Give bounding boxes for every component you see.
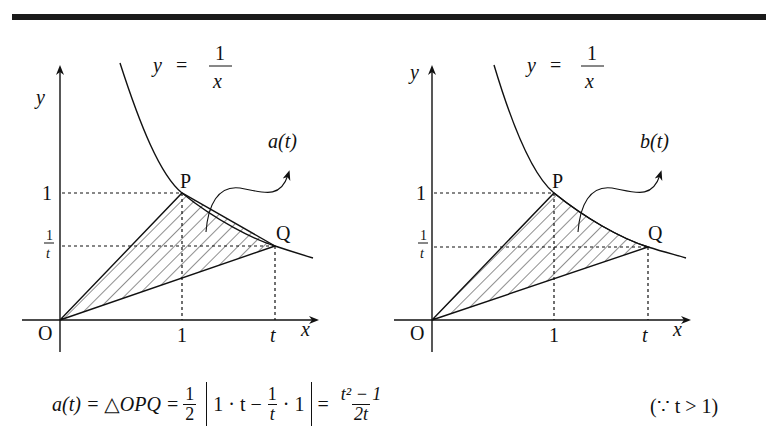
x-tick-t: t bbox=[642, 324, 648, 346]
y-tick-frac-num: 1 bbox=[420, 228, 427, 243]
x-tick-1: 1 bbox=[549, 324, 559, 346]
y-tick-frac-den: t bbox=[46, 246, 51, 261]
figures-svg: y x O 1 t 1 1 t P Q a(t) y = 1 x y x O 1… bbox=[0, 0, 766, 443]
absolute-value: 1 · t − 1 t · 1 bbox=[206, 382, 311, 426]
y-axis-label: y bbox=[34, 86, 45, 109]
region-label-b: b(t) bbox=[640, 130, 669, 153]
curve-label-lhs: y bbox=[525, 54, 536, 77]
y-tick-1: 1 bbox=[42, 182, 52, 204]
curve-label-den: x bbox=[584, 70, 594, 92]
region-label-a: a(t) bbox=[268, 130, 297, 153]
point-p-label: P bbox=[180, 170, 191, 192]
formula-lhs: a(t) = △OPQ = bbox=[52, 392, 179, 416]
y-axis-label: y bbox=[408, 61, 419, 84]
curve-label-den: x bbox=[212, 70, 222, 92]
origin-label: O bbox=[410, 322, 424, 344]
curve-label-num: 1 bbox=[215, 42, 225, 64]
abs-left: 1 · t − bbox=[213, 393, 262, 416]
x-tick-1: 1 bbox=[177, 324, 187, 346]
origin-label: O bbox=[38, 322, 52, 344]
curve-label-lhs: y bbox=[151, 54, 162, 77]
left-graph bbox=[22, 63, 314, 352]
frac-result: t² − 1 2t bbox=[339, 385, 384, 424]
point-q-label: Q bbox=[276, 222, 291, 244]
y-tick-1: 1 bbox=[416, 182, 426, 204]
y-tick-frac-den: t bbox=[420, 246, 425, 261]
condition-note: (∵ t > 1) bbox=[650, 394, 718, 418]
right-graph bbox=[394, 65, 686, 352]
area-formula: a(t) = △OPQ = 1 2 1 · t − 1 t · 1 = t² −… bbox=[52, 382, 387, 426]
curve-label-num: 1 bbox=[587, 42, 597, 64]
curve-label-eq: = bbox=[550, 54, 561, 76]
y-tick-frac-num: 1 bbox=[46, 228, 53, 243]
region-opq-curve bbox=[432, 193, 648, 320]
formula-eq: = bbox=[318, 393, 329, 416]
x-axis-label: x bbox=[672, 318, 682, 340]
triangle-opq bbox=[60, 193, 275, 320]
frac-half: 1 2 bbox=[183, 385, 196, 424]
point-p-label: P bbox=[552, 170, 563, 192]
x-tick-t: t bbox=[270, 324, 276, 346]
curve-label-eq: = bbox=[176, 54, 187, 76]
x-axis-label: x bbox=[300, 318, 310, 340]
point-q-label: Q bbox=[648, 222, 663, 244]
frac-inner: 1 t bbox=[266, 385, 279, 424]
abs-right: · 1 bbox=[283, 393, 305, 416]
